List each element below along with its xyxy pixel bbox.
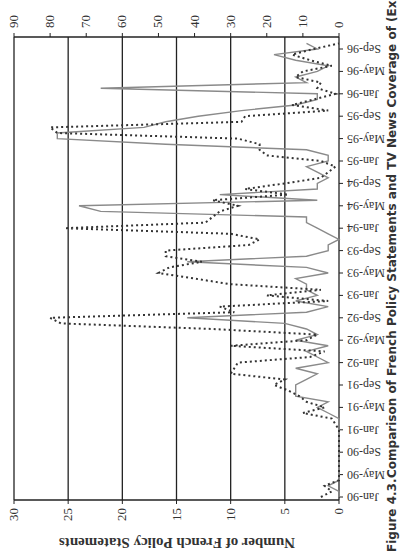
month-label: May-91 [347, 400, 385, 414]
top-tick-label: 40 [187, 15, 202, 28]
bottom-tick-label: 0 [331, 508, 346, 515]
top-tick-label: 50 [150, 15, 165, 28]
y-axis-title: Number of French Policy Statements [59, 535, 295, 551]
month-label: Jan-93 [347, 288, 379, 302]
top-tick-label: 90 [6, 15, 21, 28]
series-policy-statements [57, 43, 339, 497]
month-label: Sep-96 [347, 42, 381, 56]
chart-axes [14, 33, 343, 504]
month-label: Jan-90 [347, 490, 379, 504]
bottom-tick-label: 25 [60, 508, 75, 521]
bottom-tick-label: 20 [114, 508, 129, 521]
caption-label: Figure 4.3. [385, 479, 399, 553]
month-label: Sep-93 [347, 244, 381, 258]
figure-caption: Figure 4.3. Comparison of French Policy … [385, 0, 399, 552]
series-tv-news [50, 43, 339, 497]
month-label: May-96 [347, 64, 385, 78]
month-label: Jan-92 [347, 356, 379, 370]
top-tick-label: 70 [78, 15, 93, 28]
month-label: May-93 [347, 266, 385, 280]
bottom-tick-label: 5 [277, 508, 292, 515]
month-label: Sep-92 [347, 311, 381, 325]
bottom-tick-label: 30 [6, 508, 21, 521]
month-label: May-90 [347, 468, 385, 482]
caption-title: Comparison of French Policy Statements a… [385, 0, 399, 478]
month-label: Sep-90 [347, 445, 381, 459]
top-tick-label: 30 [223, 15, 238, 28]
top-tick-label: 60 [114, 15, 129, 28]
top-tick-label: 10 [295, 15, 310, 28]
month-label: Jan-94 [347, 221, 379, 235]
month-label: Sep-91 [347, 378, 381, 392]
month-label: May-94 [347, 199, 385, 213]
month-label: Jan-91 [347, 423, 379, 437]
month-label: Sep-95 [347, 109, 381, 123]
top-tick-label: 80 [42, 15, 57, 28]
bottom-tick-label: 15 [169, 508, 184, 521]
top-tick-label: 0 [331, 22, 346, 29]
month-label: Jan-95 [347, 154, 379, 168]
chart-grid [14, 37, 339, 500]
bottom-tick-label: 10 [223, 508, 238, 521]
month-label: May-95 [347, 132, 385, 146]
top-tick-label: 20 [259, 15, 274, 28]
month-label: Sep-94 [347, 176, 381, 190]
month-label: Jan-96 [347, 87, 379, 101]
month-label: May-92 [347, 333, 385, 347]
chart-figure: 0510152025300102030405060708090Jan-90May… [0, 0, 407, 557]
chart-series [50, 43, 339, 497]
